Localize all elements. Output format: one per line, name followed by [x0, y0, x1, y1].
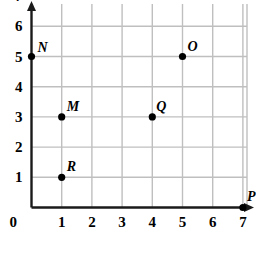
data-point-o: [179, 53, 186, 60]
data-point-m: [58, 113, 65, 120]
y-axis-tick-label: 3: [5, 110, 23, 125]
data-point-n: [28, 53, 35, 60]
point-label-p: P: [247, 190, 256, 204]
point-label-q: Q: [156, 100, 166, 114]
point-label-o: O: [188, 40, 198, 54]
y-axis-tick-label: 5: [5, 50, 23, 65]
x-axis-tick-label: 5: [174, 215, 192, 230]
y-axis-tick-label: 1: [5, 170, 23, 185]
y-axis-tick-label: 4: [5, 80, 23, 95]
x-axis-tick-label: 3: [113, 215, 131, 230]
y-axis-tick-label: 6: [5, 19, 23, 34]
origin-tick-label: 0: [10, 215, 18, 230]
y-axis-tick-label: 7: [5, 0, 23, 4]
point-label-m: M: [67, 100, 79, 114]
x-axis-tick-label: 2: [83, 215, 101, 230]
y-axis-tick-label: 2: [5, 140, 23, 155]
x-axis-tick-label: 7: [234, 215, 252, 230]
data-points: [28, 53, 247, 211]
point-label-r: R: [67, 160, 76, 174]
data-point-q: [149, 113, 156, 120]
x-axis-tick-label: 4: [143, 215, 161, 230]
data-point-r: [58, 174, 65, 181]
data-point-p: [239, 204, 246, 211]
point-label-n: N: [38, 41, 48, 55]
x-axis-tick-label: 6: [204, 215, 222, 230]
coordinate-plane-chart: 123456712345670 NOMQRP: [0, 0, 256, 253]
y-axis-arrowhead: [27, 1, 36, 11]
x-axis-tick-label: 1: [53, 215, 71, 230]
